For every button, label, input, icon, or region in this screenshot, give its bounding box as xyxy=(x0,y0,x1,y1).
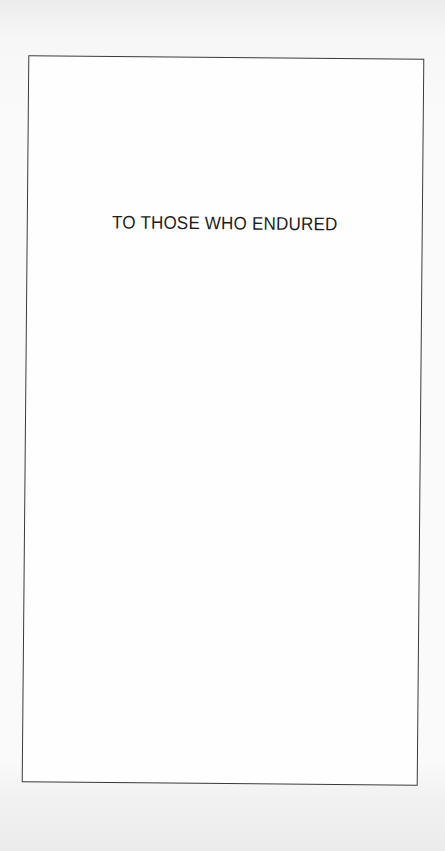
scanned-page: TO THOSE WHO ENDURED xyxy=(0,0,445,851)
page-border-frame: TO THOSE WHO ENDURED xyxy=(22,55,425,786)
dedication-text: TO THOSE WHO ENDURED xyxy=(28,211,422,236)
